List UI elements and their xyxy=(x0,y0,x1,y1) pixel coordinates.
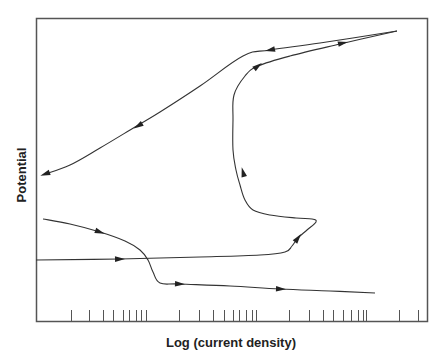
arrow-icon xyxy=(276,286,286,292)
x-axis-ticks xyxy=(72,310,419,321)
polarization-chart xyxy=(0,0,442,354)
anodic-forward-scan-curve xyxy=(36,31,397,260)
reverse-scan-curve xyxy=(45,31,397,174)
y-axis-label: Potential xyxy=(14,148,29,203)
arrow-icon xyxy=(265,46,276,54)
arrow-icon xyxy=(94,228,105,237)
arrow-icon xyxy=(252,61,263,72)
arrow-icon xyxy=(115,256,125,262)
direction-arrows xyxy=(39,39,348,292)
arrow-icon xyxy=(39,170,50,179)
x-axis-label: Log (current density) xyxy=(166,335,296,350)
arrow-icon xyxy=(175,281,185,287)
plot-frame xyxy=(37,19,428,322)
arrow-icon xyxy=(239,166,247,177)
cathodic-branch-curve xyxy=(43,219,375,293)
polarization-curves xyxy=(36,31,397,293)
